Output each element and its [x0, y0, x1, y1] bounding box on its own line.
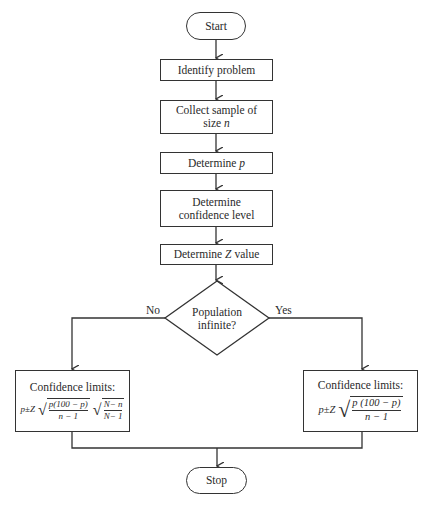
determine-confidence-step: Determine confidence level — [160, 190, 273, 227]
identify-problem-step: Identify problem — [160, 59, 273, 81]
infinite-formula: p ± Z √ p (100 − p)n − 1 — [318, 396, 402, 423]
determine-z-label: Determine Z value — [174, 248, 260, 261]
confidence-line1: Determine — [192, 196, 241, 209]
sqrt-icon: √ — [338, 403, 350, 417]
sqrt-icon: √ — [93, 403, 102, 417]
sqrt-icon: √ — [38, 403, 47, 417]
identify-problem-label: Identify problem — [178, 64, 256, 77]
start-label: Start — [205, 20, 227, 33]
collect-line2: size n — [203, 117, 230, 130]
branch-yes-label: Yes — [275, 304, 292, 316]
confidence-limits-infinite: Confidence limits: p ± Z √ p (100 − p)n … — [303, 370, 418, 432]
stop-label: Stop — [206, 474, 227, 487]
start-terminal: Start — [186, 12, 246, 40]
infinite-title: Confidence limits: — [318, 379, 403, 392]
finite-formula: p ± Z √ p(100 − p)n − 1 √ N− nN− 1 — [21, 398, 125, 421]
branch-no-label: No — [146, 304, 160, 316]
confidence-line2: confidence level — [179, 209, 255, 222]
stop-terminal: Stop — [186, 467, 247, 494]
determine-p-step: Determine p — [160, 152, 273, 174]
finite-title: Confidence limits: — [30, 381, 115, 394]
determine-p-label: Determine p — [188, 157, 245, 170]
decision-label: Population infinite? — [177, 306, 257, 332]
collect-sample-step: Collect sample of size n — [160, 100, 273, 134]
determine-z-step: Determine Z value — [160, 244, 273, 265]
confidence-limits-finite: Confidence limits: p ± Z √ p(100 − p)n −… — [15, 370, 130, 432]
collect-line1: Collect sample of — [176, 104, 257, 117]
